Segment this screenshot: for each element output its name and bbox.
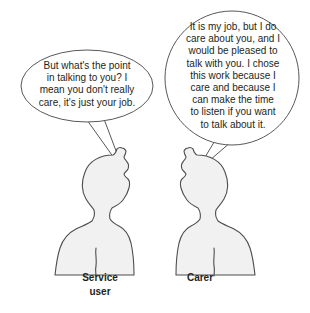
left-figure-silhouette — [55, 148, 134, 275]
left-figure-service-user — [55, 148, 134, 276]
right-figure-label: Carer — [152, 271, 248, 285]
illustration-scene: But what's the point in talking to you? … — [0, 0, 310, 313]
left-figure-label: Service user — [52, 271, 148, 298]
left-speech-bubble-text: But what's the point in talking to you? … — [24, 60, 150, 109]
right-figure-carer — [176, 148, 255, 276]
right-figure-silhouette — [176, 148, 255, 275]
right-speech-bubble-text: It is my job, but I do care about you, a… — [180, 21, 286, 131]
